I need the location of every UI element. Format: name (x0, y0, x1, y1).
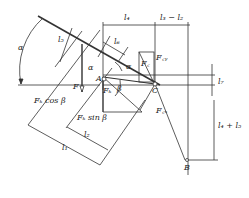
point-A-label: A (95, 74, 102, 83)
beta-label: β (116, 84, 122, 93)
alpha-arrowhead (19, 79, 23, 84)
l4-label: l₄ (124, 13, 130, 22)
l6-extension-right (118, 47, 128, 62)
l2-label: l₂ (84, 130, 90, 139)
alpha-near-C-label: α (126, 62, 132, 71)
l1-extension-line (28, 30, 100, 125)
force-Fc-label: F꜀ (140, 59, 150, 68)
point-B-label: B (183, 163, 190, 172)
force-F-label: F (72, 82, 79, 91)
Fk-cos-label: Fₖ cos β (33, 96, 66, 105)
force-diagram: α l₅ F α A Fₖ β Fₖ cos β Fₖ sin β l₄ l₃ … (0, 0, 249, 198)
point-C-label: C (152, 86, 158, 95)
point-A-marker (102, 77, 106, 81)
force-Fcy-label: F꜀ᵧ (155, 53, 168, 62)
alpha-inner-label: α (88, 63, 94, 72)
point-B-marker (186, 159, 189, 162)
force-F-arrowhead (80, 86, 84, 92)
l1-label: l₁ (62, 143, 68, 152)
force-Fk-label: Fₖ (102, 86, 112, 95)
l3-extension-line (100, 100, 145, 165)
l7-label: l₇ (218, 77, 225, 86)
l4-plus-l5-label: l₄ + l₅ (218, 121, 242, 130)
l5-dimension-line (60, 28, 72, 62)
l3-minus-l2-label: l₃ − l₂ (160, 13, 183, 22)
l5-label: l₅ (58, 35, 65, 44)
Fk-sin-label: Fₖ sin β (76, 113, 107, 122)
l6-label: l₆ (114, 37, 121, 46)
alpha-outer-label: α (18, 43, 24, 52)
force-Fcx-label: F꜀ₓ (155, 106, 168, 115)
C-to-B-line (155, 84, 185, 160)
